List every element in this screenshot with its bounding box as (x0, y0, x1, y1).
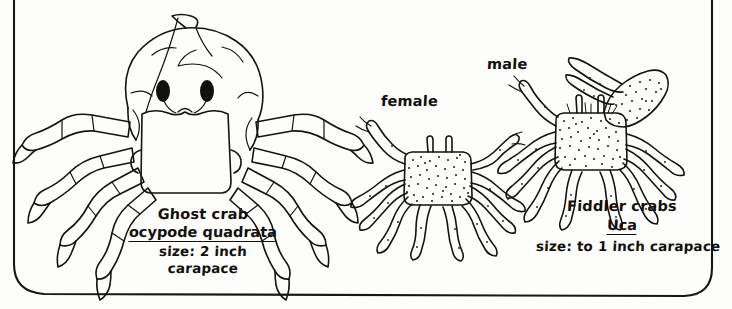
ghost-crab-species: quadrata (202, 224, 277, 242)
male-major-claw (566, 58, 668, 127)
ghost-crab-scientific-name: ocypode quadrata (128, 224, 279, 240)
fiddler-label-block: Fiddler crabs Uca size: to 1 inch carapa… (536, 198, 708, 254)
ghost-crab-size-line-2: carapace (128, 260, 279, 276)
fiddler-size-line-1: size: to 1 inch carapace (536, 238, 709, 254)
male-minor-claw (519, 81, 558, 126)
fiddler-common-name: Fiddler crabs (536, 198, 709, 214)
male-carapace (555, 113, 627, 170)
fiddler-genus: Uca (606, 217, 637, 235)
male-callout-label: male (487, 56, 528, 72)
female-callout-label: female (381, 93, 439, 109)
fiddler-scientific-name: Uca (536, 217, 709, 233)
male-claw-upper-finger (569, 58, 623, 92)
ghost-crab-common-name: Ghost crab (128, 206, 279, 222)
male-fiddler-drawing (0, 0, 732, 309)
ghost-crab-label-block: Ghost crab ocypode quadrata size: 2 inch… (128, 206, 278, 276)
male-eyestalk-left (576, 95, 582, 113)
ghost-crab-genus: ocypode (128, 224, 198, 242)
ghost-crab-size-line-1: size: 2 inch (128, 243, 279, 259)
illustration-canvas: female male Ghost crab ocypode quadrata … (0, 0, 732, 309)
male-eyestalk-right (598, 95, 604, 113)
